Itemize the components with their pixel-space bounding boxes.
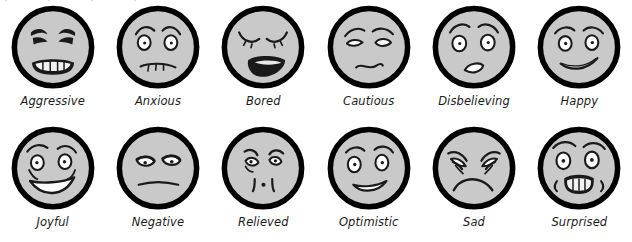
face-cell-sad: Sad [421, 121, 526, 242]
face-cell-negative: Negative [105, 121, 210, 242]
face-cell-aggressive: Aggressive [0, 0, 105, 121]
face-negative [112, 124, 204, 216]
face-disbelieving [428, 3, 520, 95]
face-label-disbelieving: Disbelieving [438, 96, 510, 108]
face-label-surprised: Surprised [551, 217, 607, 229]
face-cell-relieved: Relieved [211, 121, 316, 242]
face-cell-happy: Happy [527, 0, 632, 121]
face-bored [217, 3, 309, 95]
face-cell-anxious: Anxious [105, 0, 210, 121]
face-cell-disbelieving: Disbelieving [421, 0, 526, 121]
face-cell-bored: Bored [211, 0, 316, 121]
emotion-faces-chart: · · · · Aggre [0, 0, 632, 242]
face-cell-cautious: Cautious [316, 0, 421, 121]
face-label-happy: Happy [561, 96, 599, 108]
face-optimistic [323, 124, 415, 216]
face-joyful [7, 124, 99, 216]
face-label-bored: Bored [246, 96, 281, 108]
face-cell-surprised: Surprised [527, 121, 632, 242]
face-cell-optimistic: Optimistic [316, 121, 421, 242]
face-anxious [112, 3, 204, 95]
face-sad [428, 124, 520, 216]
face-aggressive [7, 3, 99, 95]
face-cautious [323, 3, 415, 95]
face-label-optimistic: Optimistic [339, 217, 398, 229]
face-surprised [533, 124, 625, 216]
face-label-aggressive: Aggressive [20, 96, 84, 108]
face-label-anxious: Anxious [135, 96, 181, 108]
face-cell-joyful: Joyful [0, 121, 105, 242]
face-label-relieved: Relieved [238, 217, 289, 229]
face-label-joyful: Joyful [36, 217, 68, 229]
face-label-cautious: Cautious [343, 96, 394, 108]
faces-grid: Aggressive Anxious [0, 0, 632, 242]
face-label-negative: Negative [132, 217, 184, 229]
face-label-sad: Sad [463, 217, 485, 229]
face-relieved [217, 124, 309, 216]
face-happy [533, 3, 625, 95]
